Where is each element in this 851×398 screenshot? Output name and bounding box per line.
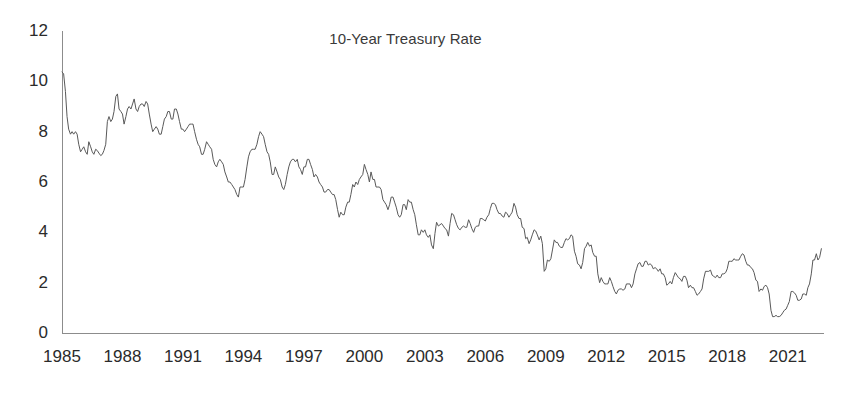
- series-line-10-year-treasury-rate: [62, 72, 821, 317]
- plot-area: [0, 0, 851, 398]
- chart-figure: 10-Year Treasury Rate 024681012 19851988…: [0, 0, 851, 398]
